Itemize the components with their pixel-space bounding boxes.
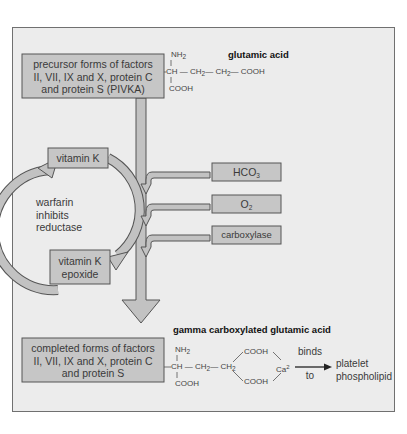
glutamic-acid-title: glutamic acid (228, 49, 289, 60)
precursor-line-2: II, VII, IX and X, protein C (22, 71, 164, 84)
target-line-2: phospholipid (336, 371, 392, 384)
glutamic-nh2: NH2 (171, 50, 186, 62)
warfarin-line-1: warfarin (36, 196, 82, 209)
completed-box-label: completed forms of factors II, VII, IX a… (22, 342, 164, 380)
calcium-ion: Ca2 (276, 362, 290, 375)
warfarin-line-3: reductase (36, 221, 82, 234)
to-label: to (295, 370, 325, 383)
gamma-title: gamma carboxylated glutamic acid (173, 324, 331, 335)
cycle-arrowhead-bottom (108, 252, 128, 270)
gamma-chain: CH — CH2— CH2 (171, 362, 236, 374)
epoxide-line-2: epoxide (50, 268, 110, 281)
hco3-label: HCO3 (212, 166, 281, 183)
gamma-cooh-alpha: COOH (175, 379, 199, 389)
glutamic-backbone: CH — CH2— CH2— COOH (166, 67, 265, 79)
glutamic-cooh: COOH (169, 84, 193, 94)
gamma-nh2: NH2 (175, 345, 190, 357)
target-line-1: platelet (336, 358, 392, 371)
completed-line-1: completed forms of factors (22, 342, 164, 355)
warfarin-line-2: inhibits (36, 209, 82, 222)
completed-line-2: II, VII, IX and X, protein C (22, 355, 164, 368)
vitamin-k-epoxide-label: vitamin K epoxide (50, 255, 110, 280)
warfarin-note: warfarin inhibits reductase (36, 196, 82, 234)
cofactor-arrows (141, 172, 210, 257)
epoxide-line-1: vitamin K (50, 255, 110, 268)
gamma-cooh-top: COOH (244, 347, 268, 357)
precursor-line-1: precursor forms of factors (22, 58, 164, 71)
platelet-phospholipid-label: platelet phospholipid (336, 358, 392, 383)
gamma-cooh-bottom: COOH (244, 377, 268, 387)
vitamin-k-label: vitamin K (48, 152, 108, 165)
binds-label: binds (295, 346, 325, 359)
o2-label: O2 (212, 198, 281, 215)
precursor-line-3: and protein S (PIVKA) (22, 83, 164, 96)
carboxylase-label: carboxylase (212, 229, 281, 242)
completed-line-3: and protein S (22, 367, 164, 380)
precursor-box-label: precursor forms of factors II, VII, IX a… (22, 58, 164, 96)
